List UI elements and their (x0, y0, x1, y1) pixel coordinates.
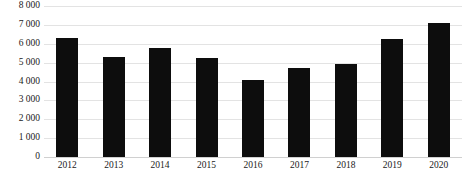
gridline (44, 157, 462, 158)
bar-2019 (381, 39, 403, 157)
bar-slot (44, 6, 90, 157)
bar-slot (369, 6, 415, 157)
bar-slot (230, 6, 276, 157)
y-axis: 01 0002 0003 0004 0005 0006 0007 0008 00… (0, 0, 40, 163)
bar-slot (137, 6, 183, 157)
y-tick-label: 4 000 (0, 77, 40, 87)
bar-slot (276, 6, 322, 157)
x-tick-label: 2017 (290, 160, 309, 171)
x-tick-label: 2013 (104, 160, 123, 171)
x-tick-label: 2012 (58, 160, 77, 171)
bar-2020 (428, 23, 450, 157)
bar-2013 (103, 57, 125, 157)
y-tick-label: 8 000 (0, 1, 40, 11)
bar-2016 (242, 80, 264, 157)
x-tick-label: 2020 (429, 160, 448, 171)
bar-2012 (56, 38, 78, 157)
x-tick-label: 2018 (336, 160, 355, 171)
y-tick-label: 6 000 (0, 39, 40, 49)
bar-2014 (149, 48, 171, 157)
bar-slot (416, 6, 462, 157)
bar-slot (323, 6, 369, 157)
x-tick-label: 2019 (383, 160, 402, 171)
bar-2017 (288, 68, 310, 157)
x-tick-label: 2014 (151, 160, 170, 171)
bar-slot (90, 6, 136, 157)
bar-2018 (335, 64, 357, 157)
bar-2015 (196, 58, 218, 157)
x-tick-label: 2015 (197, 160, 216, 171)
x-axis: 201220132014201520162017201820192020 (44, 160, 462, 176)
x-tick-label: 2016 (244, 160, 263, 171)
y-tick-label: 3 000 (0, 95, 40, 105)
y-tick-label: 7 000 (0, 20, 40, 30)
y-tick-label: 2 000 (0, 114, 40, 124)
bar-chart: 01 0002 0003 0004 0005 0006 0007 0008 00… (0, 0, 466, 191)
bar-series (44, 6, 462, 157)
y-tick-label: 1 000 (0, 133, 40, 143)
y-tick-label: 0 (0, 152, 40, 162)
bar-slot (183, 6, 229, 157)
y-tick-label: 5 000 (0, 58, 40, 68)
